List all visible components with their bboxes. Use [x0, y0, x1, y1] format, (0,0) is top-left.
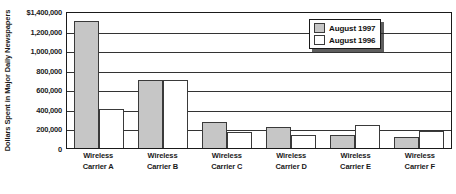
bar[interactable] [394, 137, 419, 148]
y-axis-tick: 1,200,000 [30, 27, 62, 36]
bars-layer [67, 13, 451, 148]
bar[interactable] [99, 109, 124, 148]
bar-group [67, 13, 131, 148]
bar[interactable] [266, 127, 291, 148]
bar[interactable] [202, 122, 227, 148]
y-axis-tick: 200,000 [36, 125, 62, 134]
plot-area [66, 12, 452, 149]
x-axis-tick-line2: Carrier F [388, 162, 452, 173]
chart-screenshot: Dollars Spent in Major Daily Newspapers … [0, 0, 456, 194]
legend-swatch-icon [314, 35, 325, 45]
x-axis-tick-line1: Wireless [340, 151, 370, 160]
x-axis-tick-line1: Wireless [148, 151, 178, 160]
legend-item-label: August 1996 [329, 36, 375, 45]
x-axis-tick-line1: Wireless [83, 151, 113, 160]
x-axis-tick: WirelessCarrier B [130, 151, 194, 191]
x-axis-tick-line2: Carrier D [259, 162, 323, 173]
y-axis-tick: $1,400,000 [26, 8, 62, 17]
bar[interactable] [138, 80, 163, 148]
y-axis-tick-labels: $1,400,0001,200,0001,000,000800,000600,0… [14, 12, 64, 149]
bar[interactable] [163, 80, 188, 149]
x-axis-tick-line2: Carrier E [323, 162, 387, 173]
y-axis-tick: 800,000 [36, 66, 62, 75]
x-axis-tick: WirelessCarrier F [388, 151, 452, 191]
x-axis-tick: WirelessCarrier E [323, 151, 387, 191]
y-axis-tick: 400,000 [36, 105, 62, 114]
x-axis-tick: WirelessCarrier D [259, 151, 323, 191]
x-axis-tick-labels: WirelessCarrier AWirelessCarrier BWirele… [66, 151, 452, 191]
y-axis-title-text: Dollars Spent in Major Daily Newspapers [4, 9, 13, 151]
x-axis-tick: WirelessCarrier C [195, 151, 259, 191]
bar-group [387, 13, 451, 148]
bar[interactable] [291, 135, 316, 148]
x-axis-tick-line1: Wireless [276, 151, 306, 160]
y-axis-tick: 0 [58, 145, 62, 154]
bar[interactable] [74, 21, 99, 148]
x-axis-tick-line2: Carrier A [66, 162, 130, 173]
bar-group [195, 13, 259, 148]
y-axis-tick: 600,000 [36, 86, 62, 95]
x-axis-tick-line2: Carrier B [130, 162, 194, 173]
y-axis-tick: 1,000,000 [30, 47, 62, 56]
x-axis-tick-line1: Wireless [405, 151, 435, 160]
bar[interactable] [227, 132, 252, 148]
legend-item[interactable]: August 1997 [314, 23, 375, 33]
bar[interactable] [355, 125, 380, 148]
legend-swatch-icon [314, 23, 325, 33]
bar[interactable] [330, 135, 355, 148]
legend-item[interactable]: August 1996 [314, 35, 375, 45]
chart-legend: August 1997August 1996 [309, 19, 381, 49]
x-axis-tick: WirelessCarrier A [66, 151, 130, 191]
x-axis-tick-line1: Wireless [212, 151, 242, 160]
bar[interactable] [419, 131, 444, 148]
legend-item-label: August 1997 [329, 24, 375, 33]
x-axis-tick-line2: Carrier C [195, 162, 259, 173]
bar-group [131, 13, 195, 148]
